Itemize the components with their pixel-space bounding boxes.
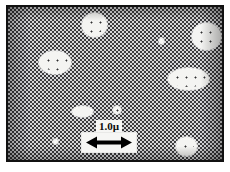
scale-bar-box xyxy=(81,132,137,153)
particle-top-speck xyxy=(159,38,164,44)
particle-center-tiny xyxy=(113,106,121,114)
micrograph-frame: 1.0µ xyxy=(6,5,224,162)
double-headed-arrow-icon xyxy=(86,136,132,149)
scale-bar: 1.0µ xyxy=(81,120,137,153)
particle-top-center xyxy=(82,13,107,37)
particle-bottom-left-speck xyxy=(53,139,58,144)
particle-mid-right xyxy=(168,68,209,90)
particle-top-right xyxy=(192,23,221,50)
particle-bottom-right xyxy=(176,137,197,156)
particle-mid-left xyxy=(39,51,71,74)
particle-center-small xyxy=(72,106,93,117)
micrograph-figure: 1.0µ xyxy=(0,0,230,172)
scale-bar-label: 1.0µ xyxy=(96,120,122,132)
